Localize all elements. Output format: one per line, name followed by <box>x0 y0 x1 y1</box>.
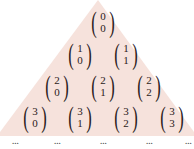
continuation-ellipsis: ... <box>54 134 61 146</box>
continuation-ellipsis: ... <box>146 134 153 146</box>
binomial-coefficient: (31) <box>69 102 91 132</box>
right-paren: ) <box>86 39 92 69</box>
right-paren: ) <box>155 71 161 101</box>
binomial-coefficient: (33) <box>161 102 183 132</box>
right-paren: ) <box>132 39 138 69</box>
binomial-coefficient: (20) <box>46 71 68 101</box>
continuation-ellipsis: ... <box>100 134 107 146</box>
binomial-coefficient: (11) <box>115 39 137 69</box>
right-paren: ) <box>132 102 138 132</box>
right-paren: ) <box>41 102 47 132</box>
right-paren: ) <box>109 71 115 101</box>
continuation-ellipsis: ... <box>185 134 192 146</box>
binomial-coefficient: (00) <box>92 7 114 37</box>
right-paren: ) <box>109 7 115 37</box>
right-paren: ) <box>63 71 69 101</box>
binomial-coefficient: (21) <box>92 71 114 101</box>
binomial-coefficient: (22) <box>138 71 160 101</box>
binomial-coefficient: (30) <box>24 102 46 132</box>
right-paren: ) <box>86 102 92 132</box>
binomial-coefficient: (10) <box>69 39 91 69</box>
continuation-ellipsis: ... <box>12 134 19 146</box>
binomial-coefficient: (32) <box>115 102 137 132</box>
right-paren: ) <box>178 102 184 132</box>
